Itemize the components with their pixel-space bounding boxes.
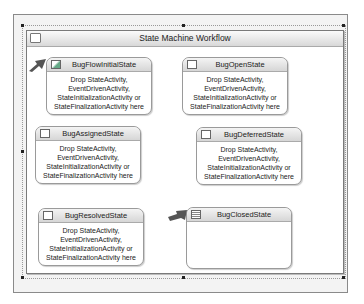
hint-line: StateInitializationActivity or bbox=[185, 93, 285, 102]
hint-line: EventDrivenActivity, bbox=[199, 154, 299, 163]
hint-line: StateFinalizationActivity here bbox=[38, 171, 138, 180]
resize-handle-bottom[interactable] bbox=[182, 276, 185, 279]
hint-line: StateFinalizationActivity here bbox=[41, 253, 141, 262]
hint-line: StateInitializationActivity or bbox=[38, 162, 138, 171]
state-drop-hint: Drop StateActivity, EventDrivenActivity,… bbox=[39, 223, 143, 265]
hint-line: EventDrivenActivity, bbox=[41, 235, 141, 244]
state-title: BugClosedState bbox=[217, 210, 271, 219]
resize-handle-top[interactable] bbox=[182, 24, 185, 27]
workflow-title-bar: State Machine Workflow bbox=[27, 31, 343, 47]
hint-line: StateInitializationActivity or bbox=[41, 244, 141, 253]
state-title: BugOpenState bbox=[215, 60, 264, 69]
resize-handle-bottom-left[interactable] bbox=[21, 276, 24, 279]
hint-line: StateFinalizationActivity here bbox=[199, 172, 299, 181]
state-title: BugAssignedState bbox=[62, 129, 124, 138]
state-header[interactable]: BugAssignedState bbox=[36, 127, 140, 141]
completed-state-arrow-icon bbox=[168, 208, 188, 222]
state-bug-resolved[interactable]: BugResolvedState Drop StateActivity, Eve… bbox=[38, 208, 144, 266]
hint-line: StateInitializationActivity or bbox=[199, 163, 299, 172]
resize-handle-left[interactable] bbox=[21, 150, 24, 153]
state-drop-hint: Drop StateActivity, EventDrivenActivity,… bbox=[47, 72, 151, 114]
resize-handle-top-right[interactable] bbox=[342, 24, 345, 27]
initial-state-arrow-icon bbox=[29, 58, 47, 72]
workflow-icon bbox=[30, 33, 41, 43]
state-title: BugResolvedState bbox=[65, 211, 127, 220]
resize-handle-top-left[interactable] bbox=[21, 24, 24, 27]
state-header[interactable]: BugResolvedState bbox=[39, 209, 143, 223]
state-header[interactable]: BugFlowInitialState bbox=[47, 58, 151, 72]
hint-line: Drop StateActivity, bbox=[185, 75, 285, 84]
state-bug-flow-initial[interactable]: BugFlowInitialState Drop StateActivity, … bbox=[46, 57, 152, 115]
hint-line: EventDrivenActivity, bbox=[38, 153, 138, 162]
state-drop-hint: Drop StateActivity, EventDrivenActivity,… bbox=[197, 142, 301, 184]
state-bug-assigned[interactable]: BugAssignedState Drop StateActivity, Eve… bbox=[35, 126, 141, 184]
state-icon bbox=[187, 60, 197, 69]
hint-line: StateFinalizationActivity here bbox=[49, 102, 149, 111]
hint-line: Drop StateActivity, bbox=[41, 226, 141, 235]
state-drop-hint: Drop StateActivity, EventDrivenActivity,… bbox=[183, 72, 287, 114]
workflow-title: State Machine Workflow bbox=[139, 33, 231, 43]
hint-line: EventDrivenActivity, bbox=[49, 84, 149, 93]
hint-line: Drop StateActivity, bbox=[38, 144, 138, 153]
state-icon bbox=[43, 211, 53, 220]
hint-line: StateFinalizationActivity here bbox=[185, 102, 285, 111]
completed-state-icon bbox=[191, 210, 201, 219]
state-body-empty bbox=[187, 222, 291, 268]
hint-line: Drop StateActivity, bbox=[199, 145, 299, 154]
state-title: BugDeferredState bbox=[224, 130, 284, 139]
initial-state-icon bbox=[51, 60, 61, 69]
state-drop-hint: Drop StateActivity, EventDrivenActivity,… bbox=[36, 141, 140, 183]
state-icon bbox=[40, 129, 50, 138]
hint-line: Drop StateActivity, bbox=[49, 75, 149, 84]
state-title: BugFlowInitialState bbox=[72, 60, 136, 69]
state-header[interactable]: BugDeferredState bbox=[197, 128, 301, 142]
hint-line: EventDrivenActivity, bbox=[185, 84, 285, 93]
state-header[interactable]: BugOpenState bbox=[183, 58, 287, 72]
state-bug-closed[interactable]: BugClosedState bbox=[186, 207, 292, 269]
state-bug-open[interactable]: BugOpenState Drop StateActivity, EventDr… bbox=[182, 57, 288, 115]
state-header[interactable]: BugClosedState bbox=[187, 208, 291, 222]
state-icon bbox=[201, 130, 211, 139]
resize-handle-bottom-right[interactable] bbox=[342, 276, 345, 279]
hint-line: StateInitializationActivity or bbox=[49, 93, 149, 102]
state-bug-deferred[interactable]: BugDeferredState Drop StateActivity, Eve… bbox=[196, 127, 302, 185]
